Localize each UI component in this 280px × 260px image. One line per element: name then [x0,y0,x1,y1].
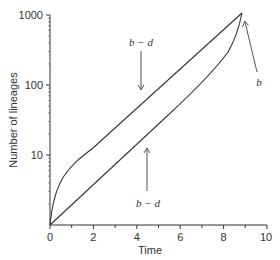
x-tick-10: 10 [260,231,272,243]
x-tick-0: 0 [47,231,53,243]
x-tick-2: 2 [90,231,96,243]
x-tick-4: 4 [134,231,140,243]
y-tick-100: 100 [25,79,43,91]
y-axis-label: Number of lineages [7,72,19,168]
x-ticks [50,225,267,229]
x-axis-label: Time [138,244,162,256]
x-tick-8: 8 [221,231,227,243]
y-tick-1000: 1000 [19,9,43,21]
lower-annotation-label: b − d [136,197,160,209]
right-annotation-label: b [256,76,262,88]
x-tick-6: 6 [177,231,183,243]
y-tick-10: 10 [31,149,43,161]
lineage-chart: 1000 100 10 0 2 4 6 8 10 Time Number of … [0,0,280,260]
right-arrow [245,22,257,72]
upper-annotation-label: b − d [129,36,153,48]
